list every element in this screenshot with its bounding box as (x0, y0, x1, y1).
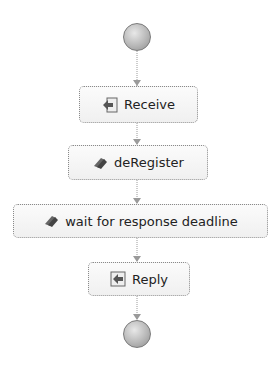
reply-icon (110, 271, 126, 287)
receive-icon (102, 97, 118, 113)
assign-icon (43, 213, 59, 229)
activity-wait-for-response-deadline[interactable]: wait for response deadline (13, 204, 268, 238)
connectors (0, 0, 276, 375)
start-node[interactable] (123, 23, 151, 51)
activity-reply[interactable]: Reply (88, 262, 190, 296)
activity-label: Receive (124, 97, 175, 112)
activity-label: wait for response deadline (65, 214, 238, 229)
activity-deregister[interactable]: deRegister (68, 145, 208, 180)
activity-receive[interactable]: Receive (79, 86, 198, 123)
activity-label: deRegister (114, 155, 184, 170)
activity-label: Reply (132, 272, 168, 287)
process-diagram: Receive deRegister wait for response dea… (0, 0, 276, 375)
assign-icon (92, 155, 108, 171)
end-node[interactable] (123, 320, 151, 348)
